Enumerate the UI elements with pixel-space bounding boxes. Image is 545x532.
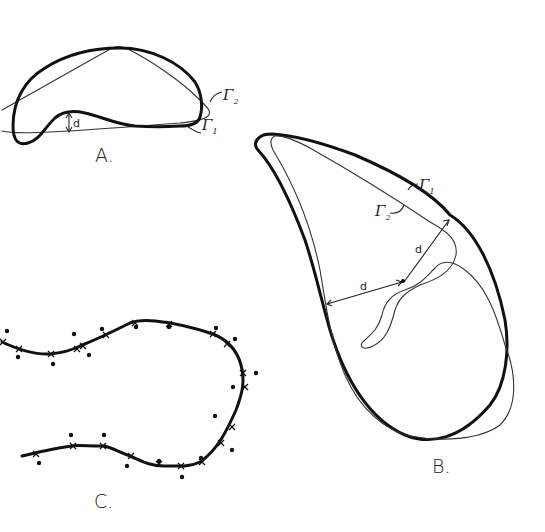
- panel-a-gamma1-label: Γ1: [201, 116, 218, 136]
- panel-b-junction-point: [401, 279, 405, 283]
- panel-a-d-label: d: [73, 117, 80, 130]
- panel-a-gamma2-label: Γ2: [222, 86, 239, 106]
- panel-a-label: A.: [95, 144, 114, 166]
- panel-b-label: B.: [432, 455, 450, 477]
- panel-b-d-label-2: d: [360, 280, 367, 293]
- panel-c: C.: [0, 320, 258, 512]
- panel-b: d d Γ1 Γ2 B.: [256, 134, 514, 477]
- panel-c-curve: [2, 320, 243, 466]
- panel-c-cross-markers: [0, 320, 248, 469]
- panel-b-gamma2-curve: [271, 136, 514, 439]
- panel-a: d Γ2 Γ1 A.: [2, 47, 239, 167]
- panel-b-d-label-1: d: [415, 243, 422, 256]
- panel-b-distance-arrow-1: [404, 220, 449, 282]
- panel-b-gamma2-leader: [390, 205, 404, 213]
- panel-a-gamma1-curve: [13, 48, 202, 144]
- panel-b-gamma1-curve: [256, 134, 507, 440]
- panel-b-gamma2-label: Γ2: [374, 202, 391, 222]
- panel-b-gamma1-label: Γ1: [418, 176, 435, 196]
- figure-canvas: d Γ2 Γ1 A. d d Γ1 Γ2 B.: [0, 0, 545, 532]
- panel-a-gamma1-leader: [188, 127, 201, 133]
- panel-c-label: C.: [94, 490, 113, 512]
- panel-a-gamma2-leader: [210, 92, 222, 102]
